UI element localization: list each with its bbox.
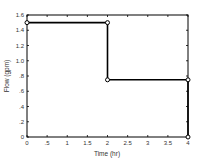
y-tick-label: 1.6 [16,12,25,18]
x-tick-label: 2.5 [123,140,132,146]
data-point-marker [186,135,190,139]
data-point-marker [106,21,110,25]
x-tick-label: 2 [106,140,110,146]
y-tick-label: .6 [19,88,25,94]
x-tick-label: 0 [25,140,29,146]
data-point-marker [25,21,29,25]
x-tick-label: .5 [45,140,51,146]
data-point-marker [186,78,190,82]
y-tick-label: 1.0 [16,58,25,64]
x-tick-label: 1 [66,140,70,146]
y-axis-label: Flow (gpm) [3,60,11,93]
x-axis-label: Time (hr) [94,150,120,158]
plot-area: 0.511.522.533.540.2.4.6.81.01.21.41.6 [16,12,191,146]
y-tick-label: .4 [19,104,25,110]
y-tick-label: 0 [21,134,25,140]
x-tick-label: 4 [186,140,190,146]
x-tick-label: 1.5 [83,140,92,146]
x-tick-label: 3.5 [164,140,173,146]
x-tick-label: 3 [146,140,150,146]
data-point-marker [106,78,110,82]
y-tick-label: 1.2 [16,43,25,49]
y-tick-label: 1.4 [16,27,25,33]
flow-vs-time-chart: 0.511.522.533.540.2.4.6.81.01.21.41.6 Ti… [0,0,198,165]
y-tick-label: .2 [19,119,25,125]
y-tick-label: .8 [19,73,25,79]
